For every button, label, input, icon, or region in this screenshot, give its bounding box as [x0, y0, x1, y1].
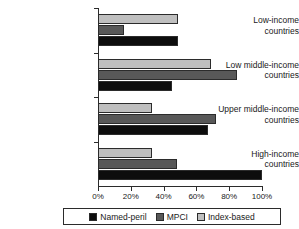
- legend-item-index-based[interactable]: Index-based: [197, 212, 255, 222]
- x-tick-label: 60%: [179, 192, 213, 202]
- x-tick-label: 80%: [212, 192, 246, 202]
- x-axis-line: [98, 186, 263, 187]
- category-label: Low middle-incomecountries: [205, 60, 299, 81]
- category-label-line: countries: [205, 159, 299, 170]
- bar-row: [98, 125, 262, 135]
- bar-row: [98, 170, 262, 180]
- x-tick-mark: [131, 187, 132, 191]
- category-tick: [94, 53, 98, 54]
- x-tick-mark: [229, 187, 230, 191]
- bar-index-based[interactable]: [98, 14, 178, 24]
- bar-named-peril[interactable]: [98, 81, 172, 91]
- bar-mpci[interactable]: [98, 25, 124, 35]
- bar-index-based[interactable]: [98, 103, 152, 113]
- bar-row: [98, 81, 262, 91]
- legend-item-mpci[interactable]: MPCI: [156, 212, 188, 222]
- category-label-line: Upper middle-income: [205, 104, 299, 115]
- bar-chart: Low-incomecountriesLow middle-incomecoun…: [0, 0, 299, 229]
- bar-mpci[interactable]: [98, 159, 177, 169]
- bar-named-peril[interactable]: [98, 125, 208, 135]
- legend-swatch-icon: [156, 213, 164, 221]
- legend-item-named-peril[interactable]: Named-peril: [89, 212, 146, 222]
- x-tick-label: 20%: [114, 192, 148, 202]
- category-label: Low-incomecountries: [205, 15, 299, 36]
- bar-named-peril[interactable]: [98, 170, 262, 180]
- x-tick-mark: [98, 187, 99, 191]
- bar-index-based[interactable]: [98, 148, 152, 158]
- x-tick-mark: [196, 187, 197, 191]
- x-tick-label: 40%: [147, 192, 181, 202]
- bar-index-based[interactable]: [98, 59, 211, 69]
- legend-swatch-icon: [89, 213, 97, 221]
- category-label-line: countries: [205, 115, 299, 126]
- x-tick-label: 100%: [245, 192, 279, 202]
- x-tick-label: 0%: [81, 192, 115, 202]
- x-tick-mark: [262, 187, 263, 191]
- category-label-line: Low-income: [205, 15, 299, 26]
- bar-mpci[interactable]: [98, 114, 216, 124]
- category-label: Upper middle-incomecountries: [205, 104, 299, 125]
- category-label-line: High-income: [205, 149, 299, 160]
- category-label-line: Low middle-income: [205, 60, 299, 71]
- legend-label: Named-peril: [100, 212, 146, 222]
- bar-named-peril[interactable]: [98, 36, 178, 46]
- bar-row: [98, 36, 262, 46]
- chart-legend: Named-perilMPCIIndex-based: [63, 208, 281, 225]
- category-label-line: countries: [205, 26, 299, 37]
- category-label-line: countries: [205, 70, 299, 81]
- x-tick-mark: [164, 187, 165, 191]
- legend-swatch-icon: [197, 213, 205, 221]
- category-tick: [94, 8, 98, 9]
- category-label: High-incomecountries: [205, 149, 299, 170]
- legend-label: MPCI: [167, 212, 188, 222]
- legend-label: Index-based: [208, 212, 255, 222]
- category-tick: [94, 97, 98, 98]
- category-tick: [94, 142, 98, 143]
